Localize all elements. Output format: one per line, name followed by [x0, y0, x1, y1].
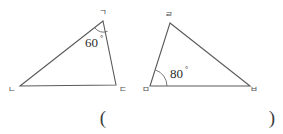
angle-arc-right [155, 70, 167, 86]
angle-value-left: 60 [85, 35, 98, 50]
angle-value-right: 80 [170, 66, 183, 81]
triangle-right-group [150, 23, 250, 86]
angle-degree-left: ° [100, 34, 103, 43]
angle-degree-right: ° [185, 65, 188, 74]
figure-canvas: ㄱ ㄴ ㄷ 60 ° ㄹ ㅁ ㅂ 80 ° ( ) [0, 0, 283, 134]
vertex-label-left-bottom-right: ㄷ [119, 84, 127, 94]
vertex-label-right-bottom-left: ㅁ [142, 84, 150, 94]
answer-close-paren: ) [269, 107, 275, 129]
vertex-label-left-bottom-left: ㄴ [8, 84, 16, 94]
triangle-right-outline [150, 23, 250, 86]
triangle-left-outline [20, 21, 116, 86]
vertex-label-right-apex: ㄹ [165, 9, 173, 19]
vertex-label-right-bottom-right: ㅂ [250, 84, 258, 94]
geometry-figure: ㄱ ㄴ ㄷ 60 ° ㄹ ㅁ ㅂ 80 ° ( ) [0, 0, 283, 134]
answer-open-paren: ( [100, 107, 106, 129]
angle-arc-left [95, 28, 108, 33]
vertex-label-left-apex: ㄱ [99, 7, 107, 17]
triangle-left-group [20, 21, 116, 86]
